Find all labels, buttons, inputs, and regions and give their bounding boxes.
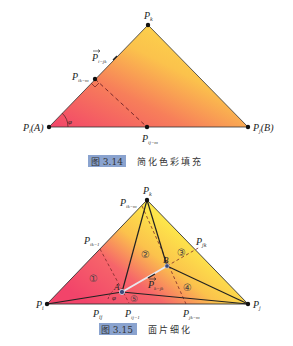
region-5-label: ⑤ (130, 294, 138, 304)
region-2-label: ② (141, 249, 150, 260)
triangle-fill (49, 25, 248, 127)
label-pikm: Pik−m (71, 71, 89, 83)
point-pk (145, 198, 149, 202)
point-a (119, 289, 124, 294)
label-pa: Pi(A) (22, 122, 44, 134)
label-angle: φ (68, 118, 72, 126)
diagram-canvas: Pk Pi(A) Pj(B) Pik−m Pij−m Pi−jk φ 图 3.1… (0, 0, 293, 346)
point-pikm (93, 77, 97, 81)
label-pk: Pk (142, 185, 152, 197)
label-pjkm: Pjk−m (182, 308, 200, 320)
point-pb (246, 125, 250, 129)
label-pb: Pj(B) (252, 122, 274, 134)
point-pi (45, 302, 49, 306)
point-pj (246, 302, 250, 306)
region-3-label: ③ (177, 247, 186, 258)
figure-3-14: Pk Pi(A) Pj(B) Pik−m Pij−m Pi−jk φ 图 3.1… (22, 10, 274, 167)
label-a: A (113, 282, 120, 292)
label-pijm: Pij−m (141, 133, 158, 145)
caption-text: 简化色彩填充 (137, 156, 203, 167)
label-b: B (163, 255, 169, 265)
figure-3-15: Pk Pi Pj Pik−m Pik−1 Pjk Pij Pij−1 Pjk−m… (35, 185, 261, 335)
point-pijm (145, 125, 149, 129)
label-pjk: Pjk (195, 236, 207, 248)
label-pik1: Pik−1 (83, 235, 100, 247)
point-pa (47, 125, 51, 129)
label-pi: Pi (35, 299, 44, 311)
label-pikm: Pik−m (119, 197, 137, 209)
label-pk: Pk (143, 10, 153, 22)
label-pij: Pij (92, 308, 103, 320)
region-4-label: ④ (183, 282, 192, 293)
label-pij1: Pij−1 (124, 308, 140, 320)
caption-text: 面片细化 (148, 324, 192, 335)
label-vector: Pi−jk (91, 52, 107, 64)
caption-number: 图 3.14 (91, 157, 123, 167)
label-angle: φ (112, 294, 116, 302)
region-1-label: ① (89, 273, 98, 284)
caption-number: 图 3.15 (101, 325, 133, 335)
label-pj: Pj (252, 299, 261, 311)
point-pk (146, 23, 150, 27)
